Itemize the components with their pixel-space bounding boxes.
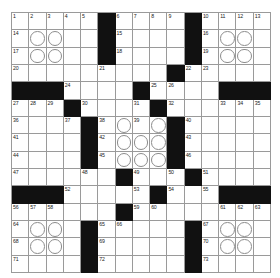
- letter-cell[interactable]: 40: [185, 117, 202, 134]
- letter-cell[interactable]: [81, 48, 98, 65]
- letter-cell[interactable]: 58: [47, 204, 64, 221]
- letter-cell[interactable]: [116, 186, 133, 203]
- letter-cell[interactable]: 22: [185, 65, 202, 82]
- letter-cell[interactable]: [29, 65, 46, 82]
- letter-cell[interactable]: 46: [185, 152, 202, 169]
- letter-cell[interactable]: [219, 134, 236, 151]
- letter-cell[interactable]: [133, 221, 150, 238]
- letter-cell[interactable]: 61: [219, 204, 236, 221]
- letter-cell[interactable]: [150, 152, 167, 169]
- letter-cell[interactable]: 14: [12, 30, 29, 47]
- letter-cell[interactable]: 25: [150, 82, 167, 99]
- letter-cell[interactable]: [219, 238, 236, 255]
- letter-cell[interactable]: [98, 100, 115, 117]
- letter-cell[interactable]: 73: [202, 256, 219, 273]
- letter-cell[interactable]: [236, 48, 253, 65]
- letter-cell[interactable]: [81, 204, 98, 221]
- letter-cell[interactable]: 35: [254, 100, 271, 117]
- letter-cell[interactable]: [133, 30, 150, 47]
- letter-cell[interactable]: [47, 152, 64, 169]
- letter-cell[interactable]: [64, 134, 81, 151]
- letter-cell[interactable]: 4: [64, 13, 81, 30]
- letter-cell[interactable]: [236, 169, 253, 186]
- letter-cell[interactable]: [185, 204, 202, 221]
- letter-cell[interactable]: 68: [12, 238, 29, 255]
- letter-cell[interactable]: [219, 117, 236, 134]
- letter-cell[interactable]: 63: [254, 204, 271, 221]
- letter-cell[interactable]: [236, 117, 253, 134]
- letter-cell[interactable]: [29, 221, 46, 238]
- letter-cell[interactable]: [116, 117, 133, 134]
- letter-cell[interactable]: [219, 30, 236, 47]
- letter-cell[interactable]: 48: [81, 169, 98, 186]
- letter-cell[interactable]: [185, 82, 202, 99]
- letter-cell[interactable]: [133, 256, 150, 273]
- letter-cell[interactable]: [254, 48, 271, 65]
- letter-cell[interactable]: [98, 82, 115, 99]
- letter-cell[interactable]: 51: [202, 169, 219, 186]
- letter-cell[interactable]: [116, 238, 133, 255]
- letter-cell[interactable]: 24: [64, 82, 81, 99]
- letter-cell[interactable]: 32: [167, 100, 184, 117]
- letter-cell[interactable]: [219, 48, 236, 65]
- letter-cell[interactable]: [202, 82, 219, 99]
- letter-cell[interactable]: 34: [236, 100, 253, 117]
- letter-cell[interactable]: 55: [202, 186, 219, 203]
- letter-cell[interactable]: [64, 48, 81, 65]
- letter-cell[interactable]: [202, 204, 219, 221]
- letter-cell[interactable]: [236, 221, 253, 238]
- letter-cell[interactable]: 9: [167, 13, 184, 30]
- letter-cell[interactable]: 6: [116, 13, 133, 30]
- letter-cell[interactable]: [29, 256, 46, 273]
- letter-cell[interactable]: [167, 48, 184, 65]
- letter-cell[interactable]: [150, 117, 167, 134]
- letter-cell[interactable]: 19: [202, 48, 219, 65]
- letter-cell[interactable]: 38: [98, 117, 115, 134]
- letter-cell[interactable]: [116, 152, 133, 169]
- letter-cell[interactable]: 60: [150, 204, 167, 221]
- letter-cell[interactable]: [254, 256, 271, 273]
- letter-cell[interactable]: [150, 134, 167, 151]
- letter-cell[interactable]: [202, 134, 219, 151]
- letter-cell[interactable]: 70: [202, 238, 219, 255]
- letter-cell[interactable]: 21: [98, 65, 115, 82]
- letter-cell[interactable]: 56: [12, 204, 29, 221]
- letter-cell[interactable]: 67: [202, 221, 219, 238]
- letter-cell[interactable]: [116, 134, 133, 151]
- letter-cell[interactable]: 65: [98, 221, 115, 238]
- letter-cell[interactable]: [254, 221, 271, 238]
- letter-cell[interactable]: [116, 100, 133, 117]
- letter-cell[interactable]: [29, 169, 46, 186]
- letter-cell[interactable]: [64, 221, 81, 238]
- letter-cell[interactable]: [47, 221, 64, 238]
- letter-cell[interactable]: 17: [12, 48, 29, 65]
- letter-cell[interactable]: [98, 204, 115, 221]
- letter-cell[interactable]: 49: [133, 169, 150, 186]
- letter-cell[interactable]: 41: [12, 134, 29, 151]
- letter-cell[interactable]: [81, 65, 98, 82]
- letter-cell[interactable]: 42: [98, 134, 115, 151]
- letter-cell[interactable]: 69: [98, 238, 115, 255]
- letter-cell[interactable]: 37: [64, 117, 81, 134]
- letter-cell[interactable]: 43: [185, 134, 202, 151]
- letter-cell[interactable]: 53: [133, 186, 150, 203]
- letter-cell[interactable]: [81, 82, 98, 99]
- letter-cell[interactable]: [47, 117, 64, 134]
- letter-cell[interactable]: [185, 100, 202, 117]
- letter-cell[interactable]: [219, 65, 236, 82]
- letter-cell[interactable]: [219, 152, 236, 169]
- letter-cell[interactable]: [254, 30, 271, 47]
- letter-cell[interactable]: [150, 221, 167, 238]
- letter-cell[interactable]: [150, 30, 167, 47]
- letter-cell[interactable]: 39: [133, 117, 150, 134]
- letter-cell[interactable]: [64, 238, 81, 255]
- letter-cell[interactable]: 16: [202, 30, 219, 47]
- letter-cell[interactable]: [202, 100, 219, 117]
- letter-cell[interactable]: 50: [167, 169, 184, 186]
- letter-cell[interactable]: [29, 117, 46, 134]
- letter-cell[interactable]: 47: [12, 169, 29, 186]
- letter-cell[interactable]: [81, 30, 98, 47]
- letter-cell[interactable]: [29, 152, 46, 169]
- letter-cell[interactable]: [98, 186, 115, 203]
- letter-cell[interactable]: [116, 65, 133, 82]
